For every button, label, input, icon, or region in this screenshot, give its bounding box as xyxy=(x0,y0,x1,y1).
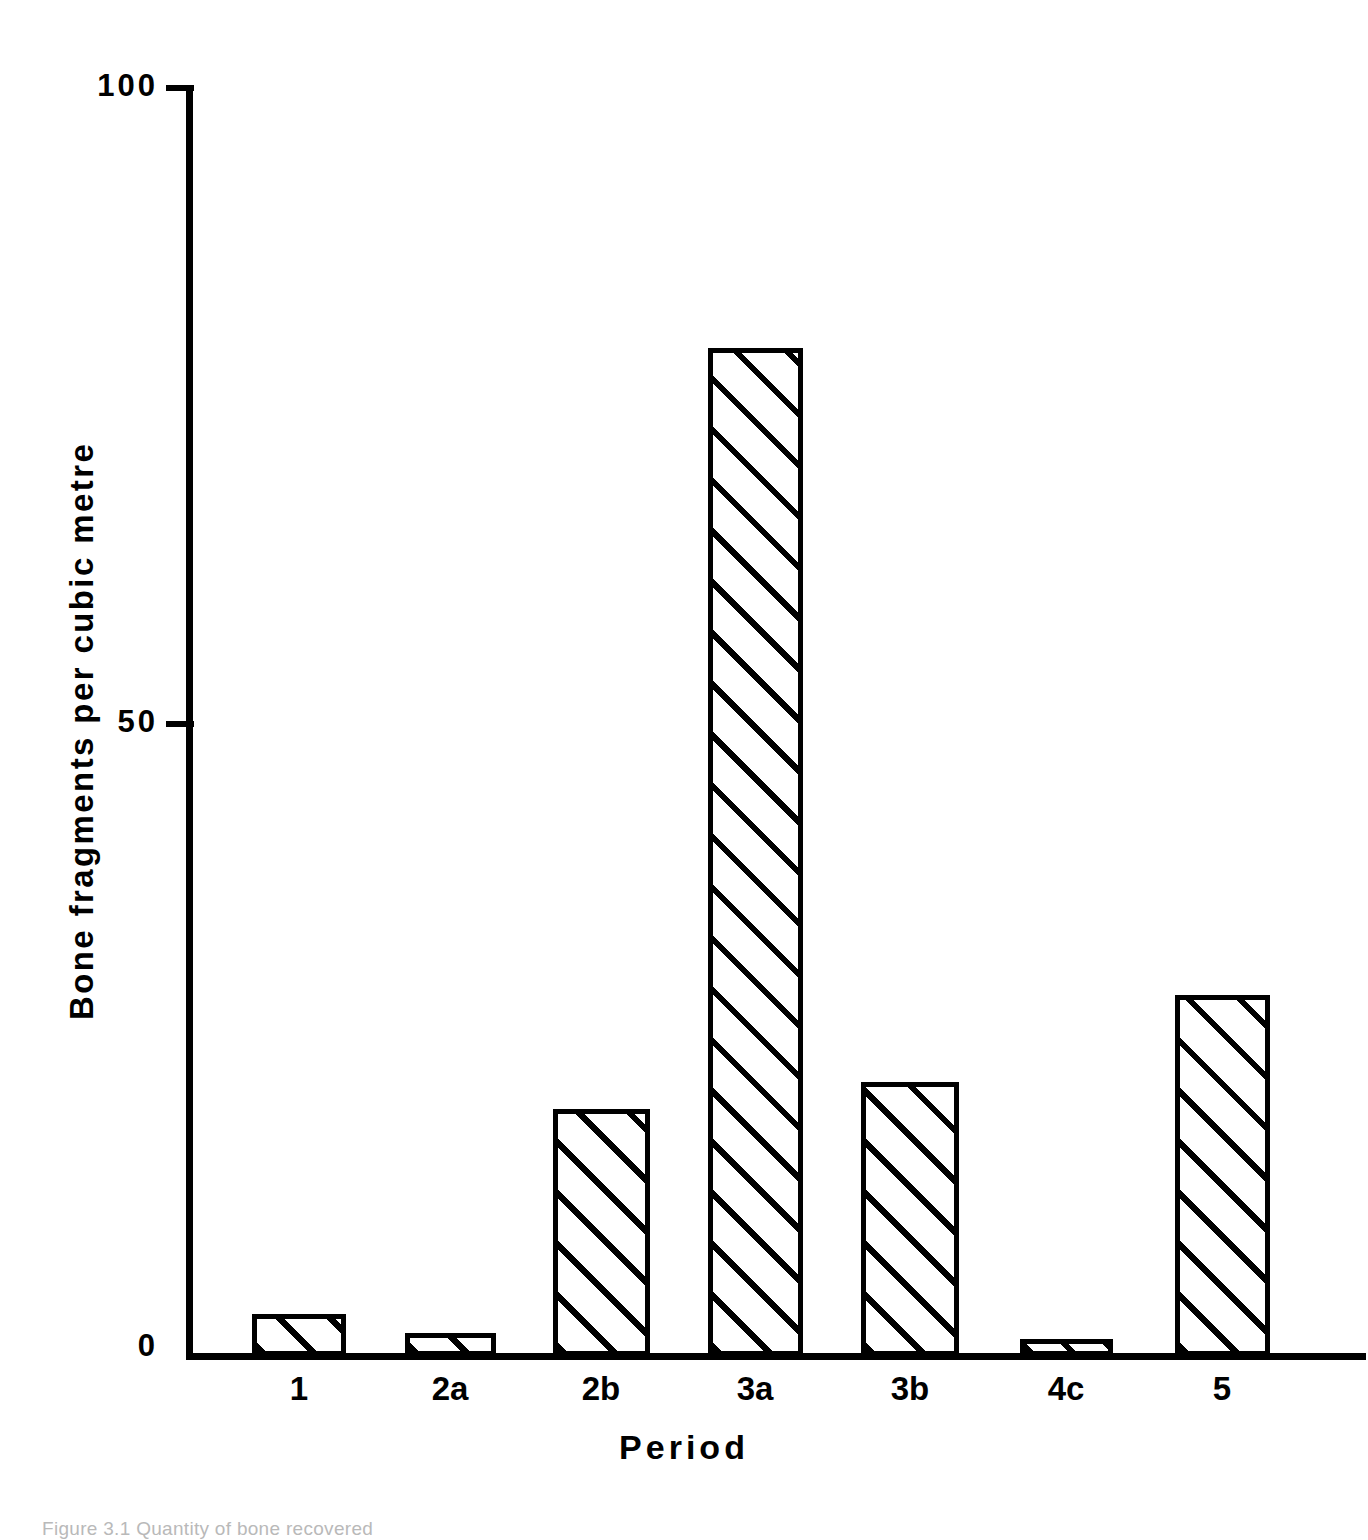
x-tick-label-4c: 4c xyxy=(1006,1372,1126,1405)
x-tick-label-3b: 3b xyxy=(850,1372,970,1405)
y-tick-mark-50 xyxy=(166,721,194,727)
bar-period-2a[interactable] xyxy=(405,1333,496,1356)
bar-period-4c[interactable] xyxy=(1020,1339,1113,1356)
bar-period-3a[interactable] xyxy=(708,348,803,1356)
figure-caption: Figure 3.1 Quantity of bone recovered xyxy=(42,1518,373,1540)
x-axis-title: Period xyxy=(0,1428,1368,1467)
x-tick-label-1: 1 xyxy=(239,1372,359,1405)
x-tick-label-3a: 3a xyxy=(695,1372,815,1405)
bar-period-1[interactable] xyxy=(252,1314,346,1356)
y-tick-mark-100 xyxy=(166,85,194,91)
x-tick-label-2a: 2a xyxy=(390,1372,510,1405)
x-tick-label-5: 5 xyxy=(1162,1372,1282,1405)
y-axis-title: Bone fragments per cubic metre xyxy=(56,260,108,1020)
y-tick-label-100: 100 xyxy=(0,70,158,101)
bar-period-2b[interactable] xyxy=(553,1109,650,1356)
bar-period-3b[interactable] xyxy=(861,1082,959,1356)
y-tick-label-0: 0 xyxy=(0,1330,158,1361)
bar-period-5[interactable] xyxy=(1175,995,1270,1356)
x-tick-label-2b: 2b xyxy=(541,1372,661,1405)
